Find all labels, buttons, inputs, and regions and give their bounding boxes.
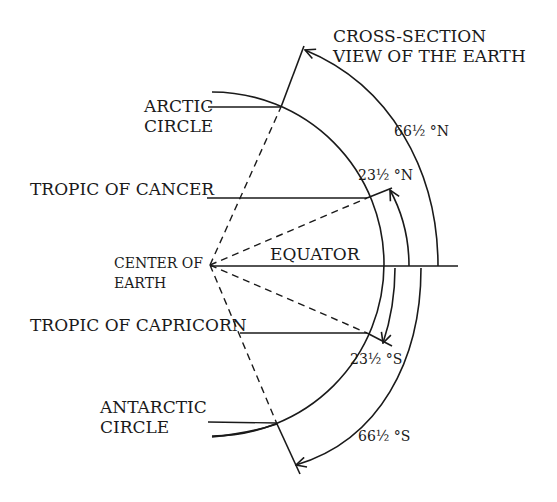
angle-66-north-label: 66½ °N bbox=[394, 124, 449, 138]
arctic-circle-line-1: ARCTIC bbox=[144, 96, 213, 116]
antarctic-extension bbox=[277, 424, 300, 474]
earth-surface-arc bbox=[212, 92, 384, 436]
arctic-circle-line-2: CIRCLE bbox=[144, 116, 213, 136]
title-line-2: VIEW OF THE EARTH bbox=[333, 46, 526, 66]
antarctic-circle-line-1: ANTARCTIC bbox=[100, 397, 207, 417]
arc-66-north bbox=[305, 50, 438, 266]
center-of-earth-line-2: EARTH bbox=[114, 273, 203, 293]
angle-23-south-label: 23½ °S bbox=[350, 352, 402, 366]
arctic-circle-label: ARCTIC CIRCLE bbox=[144, 96, 213, 136]
antarctic-circle-line-2: CIRCLE bbox=[100, 417, 207, 437]
radius-antarctic-dashed bbox=[210, 265, 277, 424]
capricorn-extension bbox=[367, 333, 392, 346]
tropic-of-capricorn-label: TROPIC OF CAPRICORN bbox=[30, 317, 247, 334]
title-line-1: CROSS-SECTION bbox=[333, 26, 526, 46]
angle-23-north-label: 23½ °N bbox=[358, 168, 413, 182]
tropic-of-cancer-label: TROPIC OF CANCER bbox=[30, 181, 214, 198]
arc-23-south bbox=[383, 268, 395, 343]
arctic-extension bbox=[281, 46, 304, 107]
angle-66-south-label: 66½ °S bbox=[358, 429, 410, 443]
center-of-earth-label: CENTER OF EARTH bbox=[114, 253, 203, 293]
cancer-extension bbox=[367, 188, 392, 198]
arc-23-north bbox=[390, 190, 409, 266]
radius-arctic-dashed bbox=[210, 107, 281, 265]
diagram-title: CROSS-SECTION VIEW OF THE EARTH bbox=[333, 26, 526, 66]
equator-label: EQUATOR bbox=[270, 246, 360, 263]
antarctic-circle-label: ANTARCTIC CIRCLE bbox=[100, 397, 207, 437]
center-of-earth-line-1: CENTER OF bbox=[114, 253, 203, 273]
antarctic-leader bbox=[208, 422, 277, 423]
